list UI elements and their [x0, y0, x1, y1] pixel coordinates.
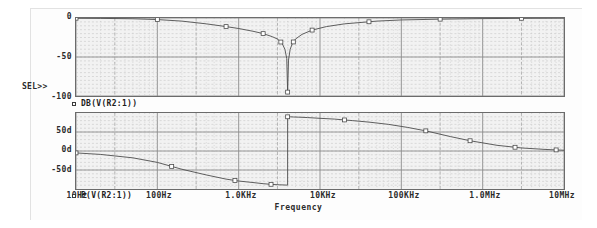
y-tick-phase-0d: 0d: [62, 146, 72, 154]
x-tick-10mhz: 10MHz: [549, 191, 575, 200]
y-tick-phase-neg50d: -50d: [51, 166, 72, 174]
phase-plot-panel[interactable]: [75, 112, 565, 190]
y-tick-mag-neg50: -50: [56, 53, 72, 61]
x-tick-100khz: 100KHz: [388, 191, 419, 200]
phase-legend-label: P(V(R2:1)): [81, 191, 132, 200]
x-tick-100hz: 100Hz: [146, 191, 172, 200]
x-tick-1khz: 1.0KHz: [225, 191, 256, 200]
x-tick-1mhz: 1.0MHz: [469, 191, 500, 200]
x-axis-title: Frequency: [0, 203, 597, 212]
magnitude-legend[interactable]: DB(V(R2:1)): [72, 99, 137, 108]
y-tick-phase-50d: 50d: [56, 127, 72, 135]
phase-trace: [76, 113, 564, 189]
square-marker-icon: [72, 194, 76, 198]
square-marker-icon: [72, 102, 76, 106]
magnitude-plot-panel[interactable]: [75, 17, 565, 97]
y-tick-mag-0: 0: [67, 13, 72, 21]
magnitude-legend-label: DB(V(R2:1)): [81, 99, 137, 108]
selected-plot-indicator[interactable]: SEL>>: [22, 83, 48, 91]
probe-plot-window: 0 -50 -100 SEL>> DB(V(R2:1)) 50d 0d -50d…: [0, 0, 597, 228]
phase-legend[interactable]: P(V(R2:1)): [72, 191, 132, 200]
y-tick-mag-neg100: -100: [51, 93, 72, 101]
x-tick-10khz: 10KHz: [310, 191, 336, 200]
magnitude-trace: [76, 18, 564, 96]
phase-y-axis: 50d 0d -50d: [0, 112, 72, 190]
